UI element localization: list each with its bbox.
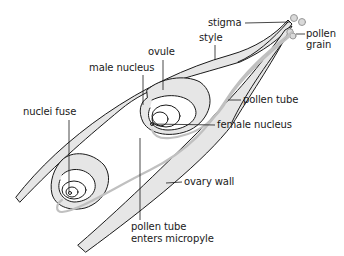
- leader-stigma: [245, 22, 290, 23]
- label-ovule: ovule: [148, 46, 175, 58]
- label-style: style: [199, 32, 222, 44]
- label-stigma: stigma: [208, 17, 242, 29]
- stigma-lobe: [299, 19, 306, 26]
- label-micropyle-line1: pollen tube: [131, 221, 186, 233]
- label-pollen-grain-line2: grain: [306, 39, 331, 51]
- diagram-drawing: [0, 0, 344, 256]
- label-pollen-tube: pollen tube: [243, 94, 298, 106]
- label-nuclei-fuse: nuclei fuse: [23, 106, 76, 118]
- label-micropyle-line2: enters micropyle: [131, 233, 214, 245]
- label-male-nucleus: male nucleus: [89, 62, 154, 74]
- label-female-nucleus: female nucleus: [217, 119, 292, 131]
- label-ovary-wall: ovary wall: [184, 176, 234, 188]
- flower-fertilisation-diagram: stigma pollen grain style ovule male nuc…: [0, 0, 344, 256]
- stigma-lobe: [291, 15, 298, 22]
